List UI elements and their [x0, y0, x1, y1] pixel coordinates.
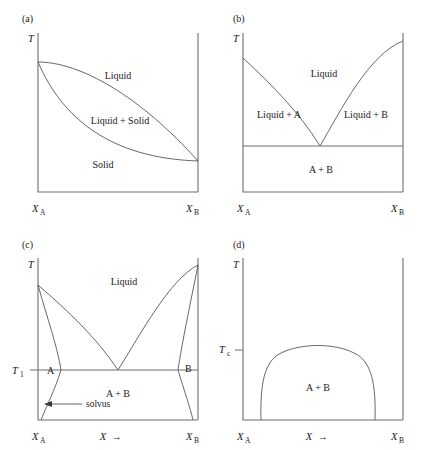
panel-d-x-left-label: X: [236, 431, 244, 442]
panel-c-liquidus-left: [38, 285, 118, 370]
panel-d-x-right-sub: B: [399, 436, 404, 445]
panel-d-x-right-label: X: [390, 431, 398, 442]
panel-c-phase-a: A: [47, 365, 55, 376]
panel-c-y-axis-label: T: [28, 259, 35, 270]
panel-b-region-liquid-b: Liquid + B: [344, 109, 388, 120]
panel-c-x-axis-arrow-icon: →: [112, 432, 122, 442]
panel-a-x-right-label: X: [185, 203, 193, 214]
panel-c-t1-sub: 1: [20, 370, 24, 379]
panel-c-x-axis-label: X: [99, 431, 107, 442]
panel-a-x-left-sub: A: [40, 208, 46, 217]
panel-d-x-axis-arrow-icon: →: [318, 432, 328, 442]
panel-a-y-axis-label: T: [28, 33, 35, 44]
panel-c-phase-b: B: [185, 363, 192, 374]
panel-d-x-axis-label: X: [305, 431, 313, 442]
panel-c-x-left-label: X: [31, 431, 39, 442]
panel-d-region-a-b: A + B: [306, 382, 330, 393]
panel-c-t1-label: T: [12, 365, 19, 376]
panel-d-tc-sub: c: [227, 349, 231, 358]
phase-diagram-figure: (a) T Liquid Liquid + Solid Solid X A X …: [0, 0, 423, 450]
panel-c-region-a-b: A + B: [106, 388, 130, 399]
panel-b-x-left-sub: A: [245, 208, 251, 217]
panel-c-region-liquid: Liquid: [111, 276, 138, 287]
panel-a-label: (a): [22, 13, 33, 25]
panel-c-solidus-left: [38, 285, 61, 370]
panel-b-region-liquid-a: Liquid + A: [257, 109, 302, 120]
panel-a-region-solid: Solid: [92, 159, 113, 170]
panel-b-y-axis-label: T: [233, 33, 240, 44]
panel-a-region-liquid: Liquid: [105, 70, 132, 81]
panel-b-region-a-b: A + B: [309, 164, 333, 175]
panel-b-x-left-label: X: [236, 203, 244, 214]
panel-c-solvus-annotation: solvus: [44, 399, 111, 409]
panel-b-x-right-sub: B: [399, 208, 404, 217]
panel-c-solvus-right: [178, 370, 193, 420]
panel-c: (c) T T 1 A B L: [0, 225, 212, 450]
panel-c-x-right-label: X: [185, 431, 193, 442]
panel-c-solidus-right: [178, 265, 198, 370]
panel-d-tc-label: T: [219, 344, 226, 355]
panel-d: (d) T T c A + B X A X → X B: [211, 225, 423, 450]
panel-b-label: (b): [233, 13, 245, 25]
panel-b-liquidus-right: [320, 41, 403, 146]
panel-c-solvus-text: solvus: [86, 399, 111, 409]
panel-d-label: (d): [233, 239, 245, 251]
panel-d-y-axis-label: T: [233, 259, 240, 270]
panel-a-x-left-label: X: [31, 203, 39, 214]
panel-d-x-left-sub: A: [245, 436, 251, 445]
panel-c-x-right-sub: B: [194, 436, 199, 445]
panel-d-axes: [243, 258, 403, 420]
panel-c-solvus-left: [41, 370, 61, 420]
panel-a: (a) T Liquid Liquid + Solid Solid X A X …: [0, 0, 212, 225]
panel-b-liquidus-left: [243, 58, 320, 146]
panel-b-region-liquid: Liquid: [311, 68, 338, 79]
panel-b: (b) T Liquid Liquid + A Liquid + B A + B…: [211, 0, 423, 225]
panel-c-x-left-sub: A: [40, 436, 46, 445]
panel-a-x-right-sub: B: [194, 208, 199, 217]
panel-b-x-right-label: X: [390, 203, 398, 214]
panel-a-axes: [38, 33, 198, 192]
panel-a-region-liquid-solid: Liquid + Solid: [91, 115, 149, 126]
panel-c-label: (c): [22, 239, 33, 251]
